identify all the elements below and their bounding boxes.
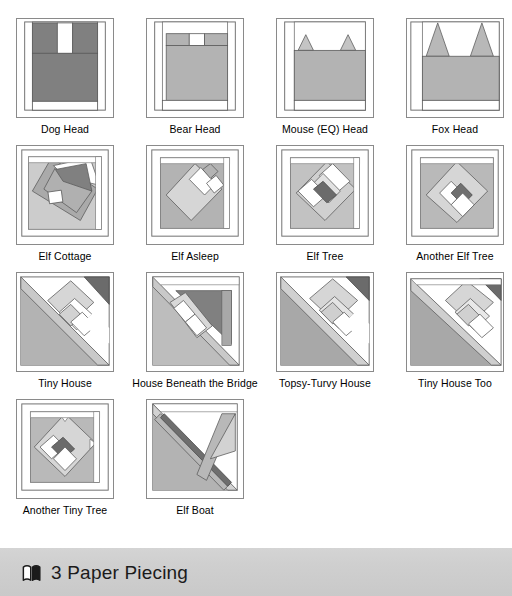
block-caption: Elf Boat: [130, 504, 260, 516]
block-row: Dog Head Bear Head: [0, 18, 512, 135]
block-caption: Another Tiny Tree: [0, 504, 130, 516]
block-grid: Dog Head Bear Head: [0, 18, 512, 526]
block-thumbnail-topsy-turvy-house[interactable]: [276, 272, 374, 372]
block-caption: Another Elf Tree: [390, 250, 512, 262]
block-caption: Elf Tree: [260, 250, 390, 262]
block-thumbnail-another-tiny-tree[interactable]: [16, 399, 114, 499]
block-cell-another-elf-tree[interactable]: Another Elf Tree: [390, 145, 512, 262]
open-book-icon: [22, 564, 42, 583]
block-cell-elf-cottage[interactable]: Elf Cottage: [0, 145, 130, 262]
block-caption: Fox Head: [390, 123, 512, 135]
block-thumbnail-another-elf-tree[interactable]: [406, 145, 504, 245]
block-caption: Tiny House Too: [390, 377, 512, 389]
block-cell-elf-tree[interactable]: Elf Tree: [260, 145, 390, 262]
block-thumbnail-mouse-eq-head[interactable]: [276, 18, 374, 118]
block-caption: Mouse (EQ) Head: [260, 123, 390, 135]
block-caption: Tiny House: [0, 377, 130, 389]
block-thumbnail-dog-head[interactable]: [16, 18, 114, 118]
block-cell-house-beneath-the-bridge[interactable]: House Beneath the Bridge: [130, 272, 260, 389]
block-cell-elf-asleep[interactable]: Elf Asleep: [130, 145, 260, 262]
section-banner: 3 Paper Piecing: [0, 547, 512, 596]
block-thumbnail-elf-asleep[interactable]: [146, 145, 244, 245]
block-caption: Dog Head: [0, 123, 130, 135]
block-caption: House Beneath the Bridge: [130, 377, 260, 389]
block-row: Elf Cottage Elf Asle: [0, 145, 512, 262]
block-thumbnail-house-beneath-the-bridge[interactable]: [146, 272, 244, 372]
banner-content: 3 Paper Piecing: [22, 562, 188, 584]
block-thumbnail-fox-head[interactable]: [406, 18, 504, 118]
block-caption: Bear Head: [130, 123, 260, 135]
block-cell-topsy-turvy-house[interactable]: Topsy-Turvy House: [260, 272, 390, 389]
block-cell-bear-head[interactable]: Bear Head: [130, 18, 260, 135]
block-thumbnail-elf-boat[interactable]: [146, 399, 244, 499]
block-thumbnail-elf-tree[interactable]: [276, 145, 374, 245]
top-margin: [0, 0, 512, 16]
block-row: Tiny House: [0, 272, 512, 389]
block-cell-fox-head[interactable]: Fox Head: [390, 18, 512, 135]
block-row: Another Tiny Tree El: [0, 399, 512, 516]
block-caption: Elf Asleep: [130, 250, 260, 262]
block-cell-tiny-house-too[interactable]: Tiny House Too: [390, 272, 512, 389]
block-caption: Topsy-Turvy House: [260, 377, 390, 389]
block-thumbnail-elf-cottage[interactable]: [16, 145, 114, 245]
block-thumbnail-tiny-house-too[interactable]: [406, 272, 504, 372]
banner-title: 3 Paper Piecing: [51, 562, 188, 584]
block-cell-mouse-eq-head[interactable]: Mouse (EQ) Head: [260, 18, 390, 135]
block-cell-another-tiny-tree[interactable]: Another Tiny Tree: [0, 399, 130, 516]
block-cell-tiny-house[interactable]: Tiny House: [0, 272, 130, 389]
block-cell-dog-head[interactable]: Dog Head: [0, 18, 130, 135]
block-caption: Elf Cottage: [0, 250, 130, 262]
catalog-sheet: Dog Head Bear Head: [0, 0, 512, 596]
block-thumbnail-tiny-house[interactable]: [16, 272, 114, 372]
block-thumbnail-bear-head[interactable]: [146, 18, 244, 118]
block-cell-elf-boat[interactable]: Elf Boat: [130, 399, 260, 516]
